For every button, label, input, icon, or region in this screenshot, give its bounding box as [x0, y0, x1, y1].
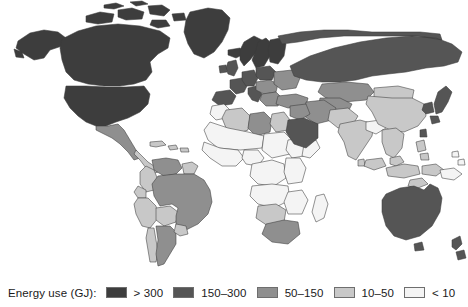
legend-swatch-under-10 [404, 287, 425, 298]
country-ireland [219, 65, 227, 73]
world-map-svg [0, 0, 468, 278]
map-area [0, 0, 468, 278]
island-taiwan [420, 129, 427, 137]
legend-swatch-150-300 [173, 287, 194, 298]
legend-item-50-150: 50–150 [257, 287, 324, 299]
legend-label-over-300: > 300 [134, 287, 164, 299]
energy-use-world-map-figure: Energy use (GJ): > 300 150–300 50–150 10… [0, 0, 468, 307]
legend-label-150-300: 150–300 [201, 287, 246, 299]
legend: Energy use (GJ): > 300 150–300 50–150 10… [0, 278, 468, 307]
legend-item-10-50: 10–50 [334, 287, 394, 299]
legend-swatch-50-150 [257, 287, 278, 298]
legend-label-10-50: 10–50 [362, 287, 394, 299]
legend-label-under-10: < 10 [432, 287, 455, 299]
island-tasmania [414, 242, 424, 251]
legend-swatch-over-300 [106, 287, 127, 298]
legend-title: Energy use (GJ): [8, 287, 97, 299]
island-sri-lanka [358, 159, 365, 166]
legend-label-50-150: 50–150 [285, 287, 324, 299]
legend-item-150-300: 150–300 [173, 287, 246, 299]
legend-item-over-300: > 300 [106, 287, 164, 299]
legend-swatch-10-50 [334, 287, 355, 298]
legend-item-under-10: < 10 [404, 287, 455, 299]
